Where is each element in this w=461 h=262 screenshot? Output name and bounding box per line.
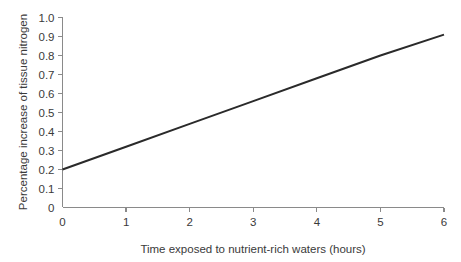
y-axis-tick-label: 0.6 xyxy=(39,88,55,100)
x-axis-title: Time exposed to nutrient-rich waters (ho… xyxy=(140,243,365,255)
y-axis-tick-label: 0.1 xyxy=(39,183,55,195)
x-axis-tick-label: 1 xyxy=(123,216,129,228)
chart-figure: 00.10.20.30.40.50.60.70.80.91.0 0123456 … xyxy=(0,0,461,262)
y-axis-tick-label: 1.0 xyxy=(39,12,55,24)
y-axis-tick-label: 0.2 xyxy=(39,164,55,176)
y-axis-tick-label: 0.4 xyxy=(39,126,56,138)
y-axis-tick-label: 0.9 xyxy=(39,31,55,43)
y-axis-tick-label: 0 xyxy=(48,202,54,214)
y-axis-tick-label: 0.8 xyxy=(39,50,55,62)
x-axis-tick-label: 2 xyxy=(186,216,192,228)
y-axis-tick-label: 0.7 xyxy=(39,69,55,81)
y-axis-tick-label: 0.5 xyxy=(39,107,55,119)
x-axis-tick-label: 3 xyxy=(250,216,256,228)
chart-background xyxy=(0,0,461,262)
y-axis-tick-label: 0.3 xyxy=(39,145,55,157)
chart-plot-area: 00.10.20.30.40.50.60.70.80.91.0 0123456 … xyxy=(0,0,461,262)
x-axis-tick-label: 6 xyxy=(441,216,447,228)
x-axis-tick-label: 5 xyxy=(377,216,383,228)
y-axis-tick-labels: 00.10.20.30.40.50.60.70.80.91.0 xyxy=(39,12,56,214)
x-axis-tick-label: 4 xyxy=(314,216,321,228)
y-axis-title: Percentage increase of tissue nitrogen xyxy=(17,14,29,210)
x-axis-tick-label: 0 xyxy=(59,216,65,228)
